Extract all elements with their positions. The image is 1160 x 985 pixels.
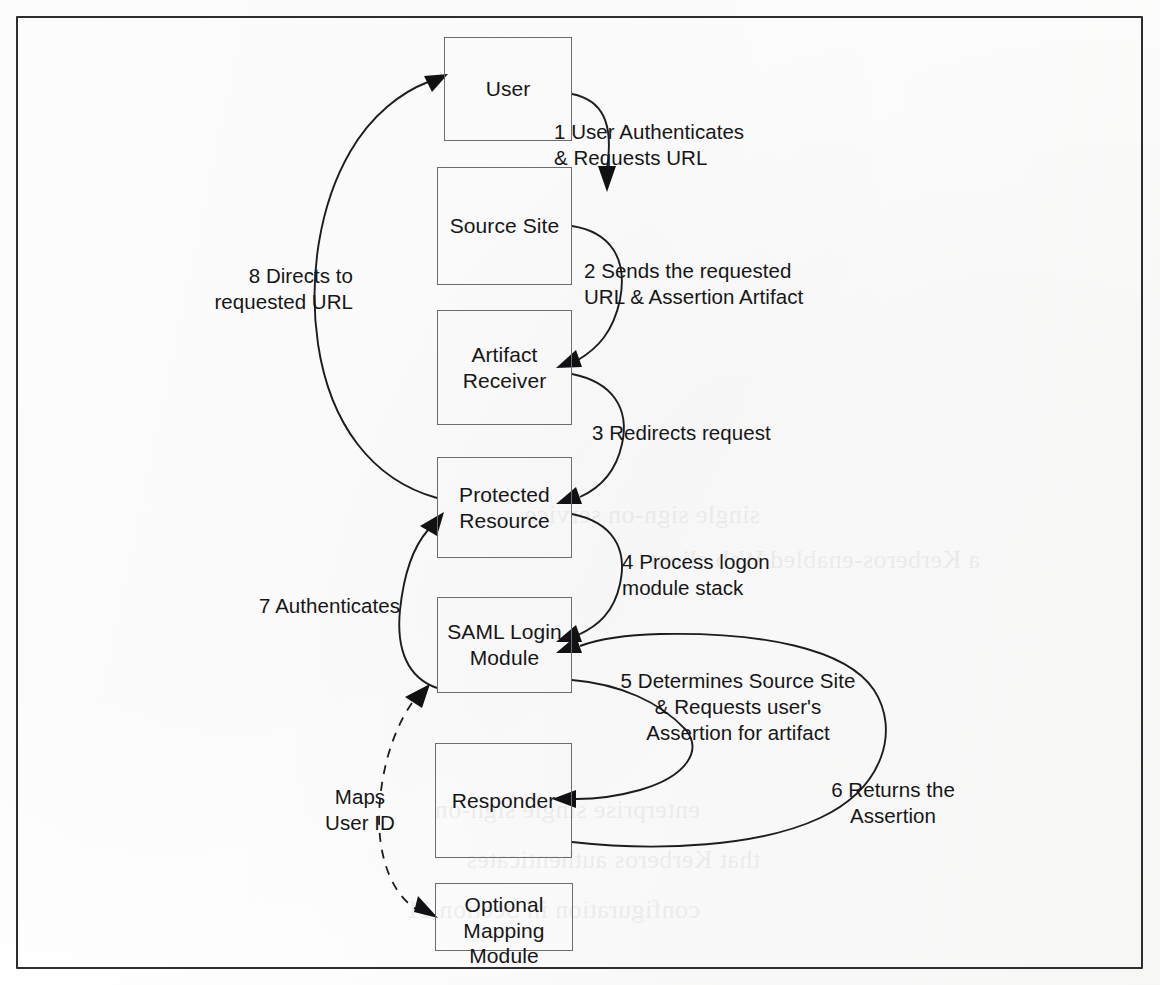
figure-border: [16, 16, 1143, 969]
node-optional-mapping-module[interactable]: Optional Mapping Module: [435, 883, 573, 951]
node-user-label: User: [482, 76, 535, 102]
node-responder-label: Responder: [448, 788, 560, 814]
node-protected-resource-label: Protected Resource: [455, 482, 554, 533]
node-artifact-receiver-label: Artifact Receiver: [459, 342, 551, 393]
node-saml-login-module-label: SAML Login Module: [443, 619, 566, 670]
node-saml-login-module[interactable]: SAML Login Module: [437, 597, 572, 693]
node-responder[interactable]: Responder: [435, 743, 572, 858]
node-artifact-receiver[interactable]: Artifact Receiver: [437, 310, 572, 425]
node-user[interactable]: User: [444, 37, 572, 141]
node-protected-resource[interactable]: Protected Resource: [437, 457, 572, 558]
node-optional-mapping-module-label: Optional Mapping Module: [459, 892, 548, 969]
node-source-site[interactable]: Source Site: [437, 167, 572, 285]
node-source-site-label: Source Site: [446, 213, 564, 239]
figure-page: single sign-on service a Kerberos-enable…: [0, 0, 1160, 985]
